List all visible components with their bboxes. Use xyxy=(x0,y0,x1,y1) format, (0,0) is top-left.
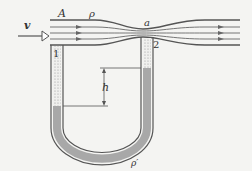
label-point1: 1 xyxy=(53,48,59,59)
label-point2: 2 xyxy=(153,39,159,50)
label-density: ρ xyxy=(88,8,95,19)
u-tube-inner xyxy=(63,37,141,153)
label-height: h xyxy=(102,81,109,94)
label-velocity: v xyxy=(24,19,31,32)
label-manometer-density: ρ′ xyxy=(130,158,138,168)
label-throat-area: a xyxy=(144,17,150,28)
right-tube-dotted xyxy=(143,38,151,68)
label-area: A xyxy=(57,7,66,20)
venturi-diagram: v A ρ a 1 2 h ρ′ xyxy=(0,0,252,171)
